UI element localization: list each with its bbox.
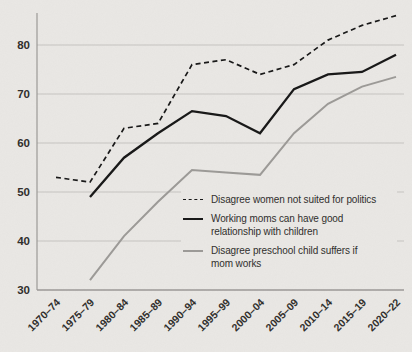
legend-label: Disagree preschool child suffers ifmom w… [211,244,357,270]
x-tick-label: 2010–14 [297,296,335,334]
y-tick-label: 60 [17,137,30,149]
x-tick-label: 1995–99 [195,296,233,334]
legend-item-2: Disagree preschool child suffers ifmom w… [183,244,397,270]
y-tick-label: 70 [17,88,30,100]
x-tick-label: 1975–79 [59,296,97,334]
x-tick-label: 1990–94 [161,296,199,334]
attitudes-line-chart: 3040506070801970–741975–791980–841985–89… [0,0,412,352]
x-tick-label: 2015–19 [331,296,369,334]
x-tick-label: 2000–04 [229,296,267,334]
y-tick-label: 40 [17,235,30,247]
y-tick-label: 30 [17,284,30,296]
x-tick-label: 1970–74 [25,296,63,334]
solid-line-swatch-icon [183,250,203,252]
x-tick-label: 1985–89 [127,296,165,334]
chart-legend: Disagree women not suited for politicsWo… [181,191,397,272]
legend-label: Disagree women not suited for politics [211,193,376,206]
series-line-1 [90,55,396,197]
y-tick-label: 50 [17,186,30,198]
dashed-line-swatch-icon [183,199,203,200]
legend-item-1: Working moms can have goodrelationship w… [183,212,397,238]
chart-page: { "page": { "background_color": "#eae8e5… [0,0,412,352]
x-tick-label: 1980–84 [93,296,131,334]
legend-label: Working moms can have goodrelationship w… [211,212,343,238]
legend-item-0: Disagree women not suited for politics [183,193,397,206]
x-tick-label: 2020–22 [365,296,403,334]
series-line-0 [56,16,396,183]
y-tick-label: 80 [17,39,30,51]
solid-line-swatch-icon [183,218,203,220]
x-tick-label: 2005–09 [263,296,301,334]
